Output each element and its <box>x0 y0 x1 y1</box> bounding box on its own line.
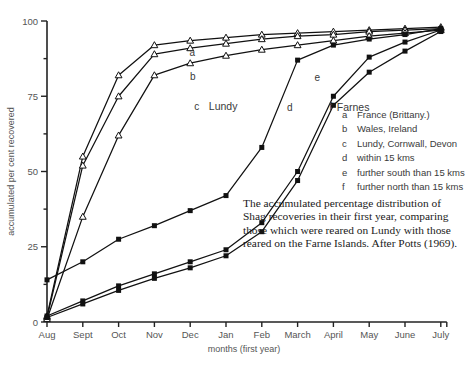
curve-label-d: d <box>287 102 293 113</box>
legend-key-c: c <box>342 138 347 149</box>
marker-d <box>259 145 264 150</box>
x-tick-label: Dec <box>182 329 199 340</box>
marker-f <box>403 49 408 54</box>
y-tick-label: 0 <box>33 317 38 328</box>
legend-label-e: further south than 15 kms <box>357 167 465 178</box>
marker-d <box>152 223 157 228</box>
legend-label-c: Lundy, Cornwall, Devon <box>357 138 457 149</box>
legend-label-d: within 15 kms <box>356 152 415 163</box>
y-tick-label: 25 <box>27 241 38 252</box>
figure: 0255075100accumulated per cent recovered… <box>0 0 468 365</box>
y-tick-label: 75 <box>27 91 38 102</box>
marker-f <box>45 315 50 320</box>
marker-c <box>115 132 122 138</box>
marker-d <box>295 58 300 63</box>
x-tick-label: April <box>324 329 343 340</box>
marker-d <box>403 32 408 37</box>
marker-d <box>188 208 193 213</box>
marker-e <box>403 40 408 45</box>
x-tick-label: March <box>284 329 310 340</box>
marker-e <box>152 271 157 276</box>
marker-f <box>188 265 193 270</box>
x-tick-label: Jan <box>218 329 233 340</box>
curve-label-f: f <box>329 101 332 112</box>
marker-e <box>331 94 336 99</box>
marker-f <box>295 178 300 183</box>
chart-canvas: 0255075100accumulated per cent recovered… <box>0 0 468 365</box>
legend-label-f: further north than 15 kms <box>357 181 463 192</box>
marker-f <box>116 288 121 293</box>
x-tick-label: Aug <box>39 329 56 340</box>
curve-label-c: c <box>194 101 199 112</box>
x-tick-label: Sept <box>73 329 93 340</box>
marker-f <box>224 253 229 258</box>
legend-key-d: d <box>342 152 347 163</box>
marker-e <box>188 259 193 264</box>
marker-d <box>45 277 50 282</box>
x-tick-label: Feb <box>254 329 270 340</box>
legend-key-b: b <box>342 123 347 134</box>
curve-label-b: b <box>190 71 196 82</box>
x-tick-label: July <box>432 329 449 340</box>
x-tick-label: May <box>360 329 378 340</box>
marker-e <box>224 247 229 252</box>
marker-d <box>367 37 372 42</box>
marker-d <box>224 193 229 198</box>
curve-label-e: e <box>315 72 321 83</box>
group-label-lundy: Lundy <box>209 100 238 112</box>
x-axis-title: months (first year) <box>208 344 281 354</box>
y-tick-label: 100 <box>22 16 38 27</box>
curve-label-a: a <box>190 47 196 58</box>
y-tick-label: 50 <box>27 166 38 177</box>
marker-e <box>295 169 300 174</box>
x-tick-label: Oct <box>111 329 126 340</box>
marker-f <box>438 29 443 34</box>
marker-d <box>331 43 336 48</box>
marker-d <box>80 259 85 264</box>
figure-caption: The accumulated percentage distribution … <box>243 197 458 250</box>
legend-label-a: France (Brittany.) <box>357 109 430 120</box>
marker-f <box>80 301 85 306</box>
marker-c <box>79 213 86 219</box>
x-tick-label: Nov <box>146 329 163 340</box>
marker-d <box>116 237 121 242</box>
marker-f <box>367 70 372 75</box>
x-tick-label: June <box>395 329 416 340</box>
marker-a <box>79 153 86 159</box>
legend-key-f: f <box>342 181 345 192</box>
marker-e <box>367 55 372 60</box>
marker-f <box>152 276 157 281</box>
legend-key-a: a <box>342 109 348 120</box>
legend-label-b: Wales, Ireland <box>357 123 417 134</box>
y-axis-title: accumulated per cent recovered <box>6 107 16 236</box>
legend-key-e: e <box>342 167 347 178</box>
marker-e <box>116 283 121 288</box>
